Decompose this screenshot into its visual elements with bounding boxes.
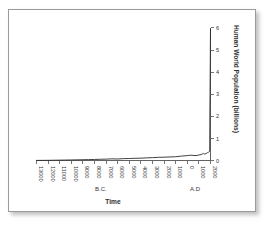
x-tick-label: 12000	[50, 166, 56, 182]
x-tick-label: 4000	[142, 166, 148, 178]
y-axis-title: Human World Population (billions)	[232, 25, 240, 133]
x-tick-label: 2000	[212, 166, 218, 178]
x-tick-label: 1000	[177, 166, 183, 178]
y-tick-label: 1	[216, 136, 219, 142]
x-tick-label: 10000	[73, 166, 79, 182]
y-tick-label: 6	[216, 25, 219, 31]
x-axis-ticks	[37, 161, 211, 165]
x-tick-label: 0	[189, 166, 195, 169]
x-tick-label: 9000	[84, 166, 90, 178]
population-line-chart: 13000 12000 11000 10000 9000 8000 7000 6…	[9, 10, 255, 211]
y-tick-label: 3	[216, 91, 219, 97]
y-tick-label: 2	[216, 113, 219, 119]
x-axis-tick-labels: 13000 12000 11000 10000 9000 8000 7000 6…	[38, 166, 218, 182]
x-tick-label: 3000	[154, 166, 160, 178]
x-tick-label: 13000	[38, 166, 44, 182]
y-tick-label: 4	[216, 69, 219, 75]
era-label-ad: A.D	[190, 186, 201, 192]
figure-root: 13000 12000 11000 10000 9000 8000 7000 6…	[0, 0, 272, 226]
figure-frame: 13000 12000 11000 10000 9000 8000 7000 6…	[8, 9, 256, 212]
x-tick-label: 7000	[108, 166, 114, 178]
y-tick-label: 0	[216, 158, 219, 164]
x-tick-label: 1000	[200, 166, 206, 178]
y-tick-label: 5	[216, 47, 219, 53]
x-tick-label: 8000	[96, 166, 102, 178]
era-label-bc: B.C.	[95, 186, 107, 192]
x-tick-label: 5000	[131, 166, 137, 178]
x-tick-label: 11000	[61, 166, 67, 181]
x-tick-label: 2000	[166, 166, 172, 178]
y-axis-ticks	[211, 28, 215, 161]
x-tick-label: 6000	[119, 166, 125, 178]
population-series-line	[37, 29, 211, 160]
y-axis-tick-labels: 0 1 2 3 4 5 6	[216, 25, 219, 164]
x-axis-title: Time	[105, 198, 121, 205]
